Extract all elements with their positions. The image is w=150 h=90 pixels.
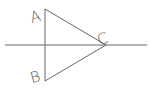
label-c: C	[95, 29, 110, 49]
label-a: A	[28, 7, 43, 27]
label-b: B	[28, 67, 42, 87]
triangle-diagram: A B C	[0, 0, 150, 90]
